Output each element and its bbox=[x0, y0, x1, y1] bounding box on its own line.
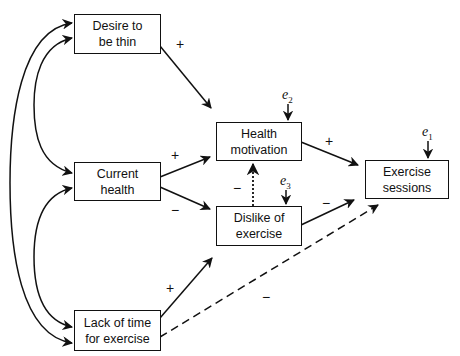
node-lack-line2: for exercise bbox=[84, 331, 151, 347]
sign-dis-ex: − bbox=[322, 196, 330, 210]
node-hm-line2: motivation bbox=[231, 142, 288, 158]
error-label-e3: e3 bbox=[280, 174, 291, 193]
node-desire-line2: be thin bbox=[92, 34, 142, 50]
node-desire-line1: Desire to bbox=[92, 18, 142, 34]
error-label-e2: e2 bbox=[282, 88, 293, 107]
node-ex-line2: sessions bbox=[383, 180, 432, 196]
node-current-health-line1: Current bbox=[97, 166, 139, 182]
node-lack-of-time: Lack of time for exercise bbox=[74, 310, 161, 351]
node-current-health: Current health bbox=[74, 162, 161, 201]
correlation-health-lack bbox=[34, 188, 72, 327]
sign-lack-dis: + bbox=[166, 281, 174, 295]
correlation-desire-health bbox=[34, 38, 72, 173]
sign-ch-dis: − bbox=[171, 203, 179, 217]
node-dislike-line1: Dislike of bbox=[234, 210, 285, 226]
node-ex-line1: Exercise bbox=[383, 164, 432, 180]
sign-ch-hm: + bbox=[171, 148, 179, 162]
error-label-e1: e1 bbox=[422, 125, 433, 144]
sign-dis-hm: − bbox=[233, 181, 241, 195]
node-lack-line1: Lack of time bbox=[84, 315, 151, 331]
node-dislike-line2: exercise bbox=[234, 226, 285, 242]
node-health-motivation: Health motivation bbox=[216, 122, 302, 161]
node-dislike-of-exercise: Dislike of exercise bbox=[216, 206, 302, 246]
sign-desire-hm: + bbox=[176, 37, 184, 51]
sign-lack-ex: − bbox=[262, 290, 270, 304]
node-desire-to-be-thin: Desire to be thin bbox=[74, 14, 161, 54]
node-hm-line1: Health bbox=[231, 126, 288, 142]
arrow-current-health-to-dislike bbox=[160, 187, 210, 209]
arrow-current-health-to-health-motivation bbox=[160, 157, 210, 177]
sign-hm-ex: + bbox=[325, 134, 333, 148]
node-current-health-line2: health bbox=[97, 182, 139, 198]
correlation-desire-lack bbox=[10, 23, 72, 343]
node-exercise-sessions: Exercise sessions bbox=[365, 160, 449, 199]
arrow-desire-to-health-motivation bbox=[160, 46, 211, 108]
